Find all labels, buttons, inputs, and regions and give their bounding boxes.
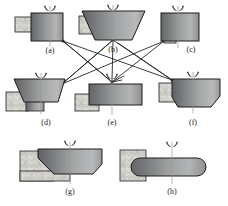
- part-h-body: [131, 158, 206, 176]
- part-a: [15, 6, 63, 47]
- part-label-b: (b): [100, 45, 126, 54]
- part-e: [75, 74, 142, 115]
- part-c: [161, 6, 199, 48]
- diagram-svg: [0, 0, 228, 206]
- figure-canvas: (a) (b) (c) (d) (e) (f) (g) (h): [0, 0, 228, 206]
- part-label-g: (g): [57, 187, 83, 196]
- part-label-f: (f): [180, 118, 206, 127]
- part-f-body: [172, 79, 220, 107]
- part-e-body: [89, 84, 142, 105]
- part-label-a: (a): [37, 46, 63, 55]
- part-d: [6, 73, 65, 114]
- part-label-h: (h): [159, 187, 185, 196]
- part-label-e: (e): [99, 118, 125, 127]
- part-label-c: (c): [178, 45, 204, 54]
- part-g: [20, 141, 102, 184]
- part-b-body: [82, 11, 145, 40]
- part-c-body: [161, 13, 199, 41]
- part-a-body: [31, 13, 63, 41]
- part-a-holder: [15, 17, 33, 32]
- part-h: [120, 142, 206, 184]
- part-label-d: (d): [33, 118, 59, 127]
